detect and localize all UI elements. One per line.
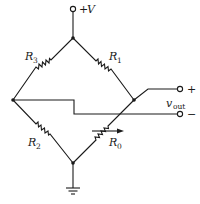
r2-label: R — [27, 136, 36, 149]
vout-label: v out — [166, 97, 185, 111]
variable-arrow-head-icon — [117, 129, 124, 134]
vout-subscript: out — [173, 102, 185, 111]
output-plus-terminal — [177, 86, 182, 91]
wheatstone-bridge-diagram: + V R 3 R 1 R 2 R 0 + − — [0, 0, 200, 204]
r0-subscript: 0 — [117, 142, 122, 151]
ground-icon — [66, 163, 80, 194]
output-minus-sign: − — [187, 108, 196, 121]
r0-label: R — [108, 136, 117, 149]
resistor-r0-variable: R 0 — [73, 100, 134, 163]
supply-terminal: + V — [70, 3, 96, 38]
r3-label: R — [24, 50, 33, 63]
resistor-r2: R 2 — [13, 100, 73, 163]
r3-subscript: 3 — [33, 56, 38, 65]
r1-subscript: 1 — [117, 56, 122, 65]
resistor-r3: R 3 — [13, 38, 73, 100]
supply-voltage-label: V — [87, 3, 96, 16]
r2-subscript: 2 — [36, 142, 41, 151]
output-plus-sign: + — [187, 83, 196, 96]
r1-label: R — [108, 50, 117, 63]
vout-letter: v — [166, 97, 173, 110]
resistor-r1: R 1 — [73, 38, 134, 100]
output-minus-terminal — [177, 111, 182, 116]
